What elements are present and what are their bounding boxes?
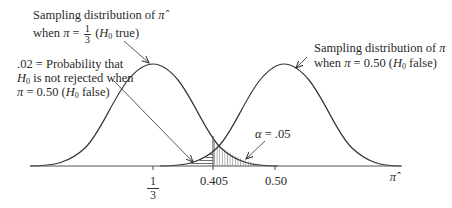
- ha-label-arrow: [296, 57, 307, 68]
- ha-distribution-label: Sampling distribution of π: [314, 41, 446, 56]
- beta-label: .02 = Probability that: [17, 57, 123, 72]
- h0-label-text: Sampling distribution of: [33, 8, 158, 22]
- equals-text: =: [69, 26, 82, 40]
- false-text: false): [79, 85, 110, 99]
- beta-label-line1: .02 = Probability that: [17, 57, 123, 71]
- frac-den: 3: [84, 35, 91, 45]
- tick-label-half: 0.50: [261, 174, 291, 189]
- frac-num: 1: [147, 175, 159, 189]
- alpha-value: = .05: [262, 127, 291, 141]
- true-text: true): [112, 26, 139, 40]
- h-symbol: H: [66, 85, 75, 99]
- h0-distribution-label-line2: when π = 13 (H0 true): [33, 24, 139, 45]
- value-text: = 0.50 (: [350, 56, 392, 70]
- pi-symbol: π: [439, 41, 445, 55]
- pi-hat-glyph: π̂: [158, 8, 164, 22]
- beta-label-arrow: [114, 81, 193, 162]
- value-text: = 0.50 (: [23, 85, 65, 99]
- beta-label-line3: π = 0.50 (H0 false): [17, 85, 110, 103]
- tick-label-one-third: 13: [147, 175, 159, 202]
- one-third-fraction: 13: [84, 24, 91, 45]
- h-symbol: H: [393, 56, 402, 70]
- not-rejected-text: is not rejected when: [30, 71, 133, 85]
- power-diagram: Sampling distribution of π̂π̂ when π = 1…: [0, 0, 452, 208]
- h-symbol: H: [99, 26, 108, 40]
- alpha-label: α = .05: [255, 127, 291, 142]
- ha-label-text: Sampling distribution of: [314, 41, 439, 55]
- frac-den: 3: [147, 189, 159, 202]
- ha-distribution-curve: [160, 64, 401, 166]
- h-symbol: H: [17, 71, 26, 85]
- when-text: when: [33, 26, 63, 40]
- alpha-label-arrow: [246, 141, 265, 159]
- h0-distribution-label: Sampling distribution of π̂π̂: [33, 8, 165, 23]
- tick-label-critical-value: 0.405: [197, 174, 231, 189]
- false-text: false): [406, 56, 437, 70]
- when-text: when: [314, 56, 344, 70]
- ha-distribution-label-line2: when π = 0.50 (H0 false): [314, 56, 437, 74]
- x-axis-label: π̂: [386, 170, 400, 185]
